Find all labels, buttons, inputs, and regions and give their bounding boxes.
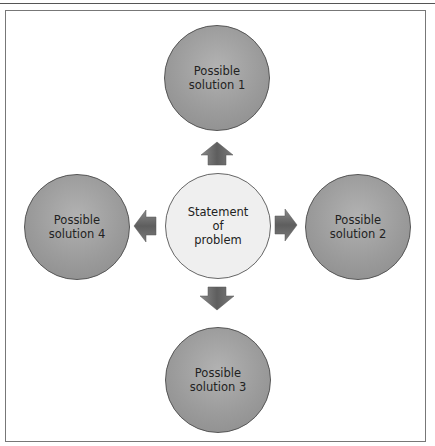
solution-4-label: Possible solution 4 bbox=[49, 213, 106, 241]
problem-statement-label: Statement of problem bbox=[188, 205, 249, 247]
header-rule bbox=[0, 3, 435, 4]
solution-3-circle: Possible solution 3 bbox=[165, 327, 271, 433]
solution-2-label: Possible solution 2 bbox=[330, 213, 387, 241]
solution-2-circle: Possible solution 2 bbox=[305, 174, 411, 280]
solution-1-circle: Possible solution 1 bbox=[164, 25, 270, 131]
solution-1-label: Possible solution 1 bbox=[189, 64, 246, 92]
solution-3-label: Possible solution 3 bbox=[190, 366, 247, 394]
problem-statement-circle: Statement of problem bbox=[165, 173, 271, 279]
solution-4-circle: Possible solution 4 bbox=[24, 174, 130, 280]
